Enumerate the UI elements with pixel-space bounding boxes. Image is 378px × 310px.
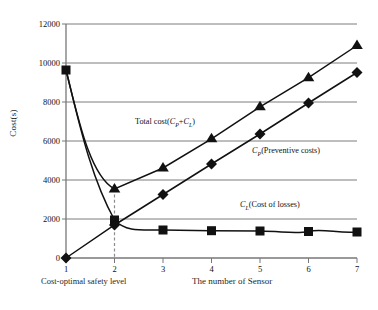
cost-optimal-safety-level-label: Cost-optimal safety level — [41, 276, 126, 286]
x-tick-5: 5 — [250, 264, 270, 274]
series-label-total-cost: Total cost(CP+CL) — [135, 117, 195, 128]
x-axis-ticks — [66, 258, 357, 263]
series-label-preventive-costs: CP(Preventive costs) — [252, 146, 320, 157]
x-tick-4: 4 — [202, 264, 222, 274]
gridlines — [66, 24, 357, 219]
x-tick-7: 7 — [347, 264, 367, 274]
series-label-cost-of-losses: CL(Cost of losses) — [240, 200, 300, 211]
x-tick-2: 2 — [105, 264, 125, 274]
total-cost-prefix: Total cost( — [135, 117, 170, 126]
x-tick-3: 3 — [153, 264, 173, 274]
preventive-text: (Preventive costs) — [261, 146, 320, 155]
markers-total-cost — [109, 40, 363, 193]
chart-figure: Cost(s) 12000 10000 8000 6000 4000 2000 … — [0, 0, 378, 310]
total-cost-suffix: ) — [192, 117, 195, 126]
losses-text: (Cost of losses) — [249, 200, 300, 209]
x-axis-title: The number of Sensor — [192, 276, 272, 286]
x-tick-6: 6 — [299, 264, 319, 274]
x-tick-1: 1 — [56, 264, 76, 274]
